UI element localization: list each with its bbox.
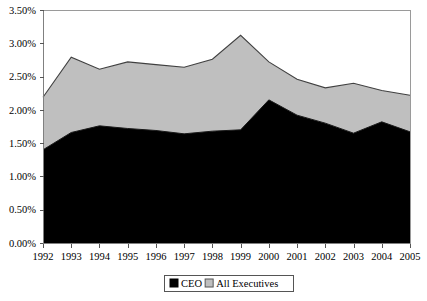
y-tick-label: 0.50% — [9, 204, 36, 215]
legend-label-1: All Executives — [216, 278, 278, 289]
x-tick-label: 2003 — [343, 251, 364, 262]
x-tick-label: 1993 — [61, 251, 82, 262]
x-tick-label: 1995 — [117, 251, 138, 262]
x-tick-label: 1996 — [145, 251, 166, 262]
y-tick-label: 2.50% — [9, 71, 36, 82]
x-tick-label: 1997 — [174, 251, 195, 262]
x-tick-label: 2004 — [371, 251, 393, 262]
legend-label-0: CEO — [181, 278, 202, 289]
y-tick-label: 3.50% — [9, 5, 36, 16]
chart-canvas: 0.00%0.50%1.00%1.50%2.00%2.50%3.00%3.50%… — [0, 0, 427, 301]
y-tick-label: 3.00% — [9, 38, 36, 49]
x-tick-label: 2001 — [287, 251, 308, 262]
x-tick-label: 1998 — [202, 251, 223, 262]
y-tick-label: 0.00% — [9, 238, 36, 249]
x-tick-label: 2000 — [258, 251, 279, 262]
plot-area: 0.00%0.50%1.00%1.50%2.00%2.50%3.00%3.50%… — [9, 5, 421, 292]
y-tick-label: 2.00% — [9, 105, 36, 116]
y-tick-label: 1.50% — [9, 138, 36, 149]
legend-swatch-ceo — [170, 279, 178, 287]
x-tick-label: 2002 — [315, 251, 336, 262]
stacked-area-chart: 0.00%0.50%1.00%1.50%2.00%2.50%3.00%3.50%… — [0, 0, 427, 301]
x-tick-label: 1992 — [33, 251, 54, 262]
x-tick-label: 1994 — [89, 251, 111, 262]
x-tick-label: 1999 — [230, 251, 251, 262]
legend-swatch-all-executives — [205, 279, 213, 287]
x-tick-label: 2005 — [400, 251, 421, 262]
y-tick-label: 1.00% — [9, 171, 36, 182]
